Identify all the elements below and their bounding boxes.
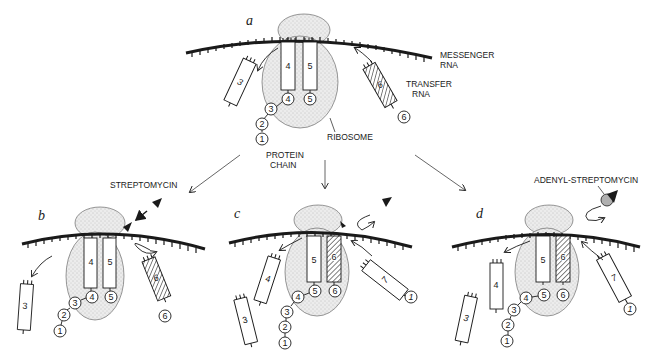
trna-released: 3 bbox=[222, 55, 258, 110]
svg-text:4: 4 bbox=[493, 280, 498, 290]
svg-text:4: 4 bbox=[295, 292, 300, 302]
svg-text:1: 1 bbox=[259, 134, 264, 144]
panel-c: c 5 6 5 6 4 3 2 1 4 3 bbox=[229, 197, 417, 349]
svg-text:6: 6 bbox=[560, 252, 565, 262]
svg-text:3: 3 bbox=[511, 305, 516, 315]
svg-text:3: 3 bbox=[284, 307, 289, 317]
streptomycin-label: STREPTOMYCIN bbox=[110, 180, 177, 190]
panel-a: a MESSENGER RNA 4 5 3 bbox=[186, 13, 494, 170]
svg-text:5: 5 bbox=[541, 290, 546, 300]
branch-arrows bbox=[190, 155, 465, 192]
adenyl-streptomycin-label: ADENYL-STREPTOMYCIN bbox=[534, 175, 638, 185]
svg-text:2: 2 bbox=[282, 322, 287, 332]
svg-text:2: 2 bbox=[505, 320, 510, 330]
svg-text:5: 5 bbox=[311, 255, 316, 265]
panel-b: b 4 5 4 5 3 2 1 3 6 6 bbox=[17, 180, 205, 337]
svg-text:4: 4 bbox=[285, 61, 290, 71]
transfer-rna-label: TRANSFER bbox=[406, 79, 452, 89]
svg-text:6: 6 bbox=[331, 252, 336, 262]
svg-text:5: 5 bbox=[108, 292, 113, 302]
svg-text:5: 5 bbox=[107, 257, 112, 267]
svg-text:3: 3 bbox=[22, 301, 28, 311]
trna-a-site: 5 bbox=[303, 38, 317, 90]
svg-text:2: 2 bbox=[259, 119, 264, 129]
svg-text:4: 4 bbox=[523, 293, 528, 303]
svg-text:1: 1 bbox=[627, 304, 632, 314]
svg-text:1: 1 bbox=[282, 338, 287, 348]
panel-label-a: a bbox=[246, 13, 253, 28]
svg-text:6: 6 bbox=[162, 311, 167, 321]
svg-text:5: 5 bbox=[307, 61, 312, 71]
svg-text:1: 1 bbox=[57, 326, 62, 336]
svg-text:6: 6 bbox=[560, 290, 565, 300]
svg-text:4: 4 bbox=[285, 94, 290, 104]
panel-label-c: c bbox=[234, 206, 241, 221]
svg-text:3: 3 bbox=[72, 298, 77, 308]
protein-chain-label-2: CHAIN bbox=[270, 160, 296, 170]
ribosome-label: RIBOSOME bbox=[327, 132, 373, 142]
panel-label-d: d bbox=[476, 206, 484, 221]
transfer-rna-label-2: RNA bbox=[412, 89, 430, 99]
trna-incoming: 6 bbox=[361, 59, 400, 112]
svg-text:6: 6 bbox=[332, 286, 337, 296]
adenyl-streptomycin-icon bbox=[601, 190, 618, 206]
streptomycin-icon bbox=[152, 198, 162, 208]
svg-text:4: 4 bbox=[88, 257, 93, 267]
svg-text:3: 3 bbox=[268, 104, 273, 114]
svg-text:1: 1 bbox=[408, 292, 413, 302]
streptomycin-released-icon bbox=[382, 197, 392, 207]
svg-text:4: 4 bbox=[89, 292, 94, 302]
svg-text:6: 6 bbox=[401, 112, 406, 122]
messenger-rna-label: MESSENGER bbox=[440, 50, 494, 60]
svg-text:5: 5 bbox=[540, 255, 545, 265]
svg-text:5: 5 bbox=[307, 94, 312, 104]
svg-text:2: 2 bbox=[61, 310, 66, 320]
panel-label-b: b bbox=[38, 208, 45, 223]
panel-d: d 5 6 5 6 4 3 2 1 4 3 bbox=[452, 175, 640, 347]
trna-p-site: 4 bbox=[281, 38, 295, 90]
messenger-rna-label-2: RNA bbox=[440, 60, 458, 70]
svg-text:5: 5 bbox=[312, 286, 317, 296]
protein-chain-label: PROTEIN bbox=[266, 150, 304, 160]
ribosome-streptomycin-diagram: a MESSENGER RNA 4 5 3 bbox=[0, 0, 651, 357]
svg-text:1: 1 bbox=[504, 336, 509, 346]
